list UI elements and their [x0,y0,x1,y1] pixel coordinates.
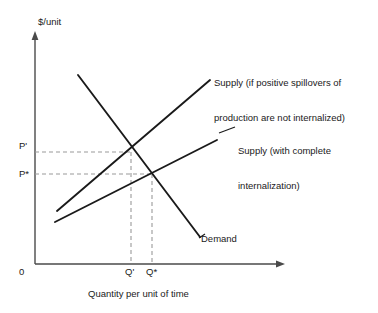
supply-internalized-annotation-line1: Supply (with complete [238,145,331,157]
origin-label: 0 [19,266,24,278]
supply-internalized-annotation: Supply (with complete internalization) [238,122,331,214]
curve-group [55,75,217,237]
price-tick-label-low: P* [19,168,29,180]
quantity-tick-label-low: Q' [125,266,134,278]
guide-line-group [35,152,152,264]
figure-canvas: $/unit 0 Quantity per unit of time P' P*… [0,0,378,313]
y-axis-arrowhead [32,31,39,40]
x-axis-label: Quantity per unit of time [88,288,189,300]
y-axis-label: $/unit [38,16,61,28]
supply-external-annotation-line1: Supply (if positive spillovers of [214,77,345,89]
quantity-tick-label-high: Q* [146,266,157,278]
supply-internalized-annotation-line2: internalization) [238,180,331,192]
x-axis-arrowhead [276,261,285,268]
supply-external-curve [57,80,210,211]
demand-annotation: Demand [201,233,237,245]
price-tick-label-high: P' [19,140,27,152]
demand-curve [78,75,200,237]
